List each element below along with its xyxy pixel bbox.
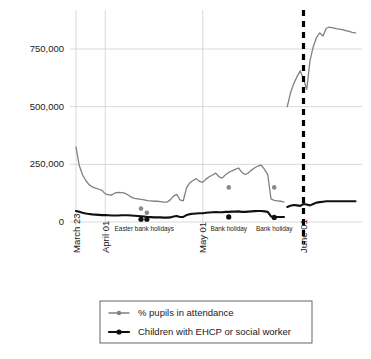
holiday-marker-ehcp <box>272 215 277 220</box>
gridlines <box>70 49 362 222</box>
attendance-chart: 0250,000500,000750,000 Easter bank holid… <box>0 0 371 359</box>
y-tick-label: 500,000 <box>30 101 64 112</box>
holiday-marker-attendance <box>139 206 144 211</box>
holiday-marker-ehcp <box>138 217 143 222</box>
series-line-0 <box>76 147 284 202</box>
holiday-marker-ehcp <box>144 217 149 222</box>
x-tick-label: April 01 <box>100 221 111 253</box>
y-axis-tick-labels: 0250,000500,000750,000 <box>30 43 64 227</box>
holiday-marker-attendance <box>226 185 231 190</box>
holiday-marker-attendance <box>272 185 277 190</box>
annotation-label: Bank holiday <box>210 225 247 233</box>
x-tick-label: May 01 <box>197 222 208 253</box>
legend-swatch-marker <box>117 311 121 315</box>
legend-item-label: % pupils in attendance <box>138 307 234 318</box>
series-line-1 <box>76 211 284 218</box>
chart-legend: % pupils in attendanceChildren with EHCP… <box>100 301 312 343</box>
y-tick-label: 750,000 <box>30 43 64 54</box>
annotation-label: Easter bank holidays <box>115 225 174 233</box>
legend-item-label: Children with EHCP or social worker <box>138 326 291 337</box>
x-tick-label: June 01 <box>298 219 309 253</box>
x-tick-label: March 23 <box>71 213 82 253</box>
series-line-0-post <box>287 27 355 107</box>
vertical-gridlines <box>76 10 203 240</box>
chart-canvas: 0250,000500,000750,000 Easter bank holid… <box>0 0 371 359</box>
data-series <box>76 27 356 218</box>
annotation-label: Bank holiday <box>256 225 293 233</box>
legend-swatch-marker <box>116 329 121 334</box>
holiday-marker-ehcp <box>226 214 231 219</box>
y-tick-label: 250,000 <box>30 158 64 169</box>
event-markers <box>138 185 276 222</box>
y-tick-label: 0 <box>59 216 64 227</box>
series-line-1-post <box>287 201 355 207</box>
holiday-marker-attendance <box>145 210 150 215</box>
